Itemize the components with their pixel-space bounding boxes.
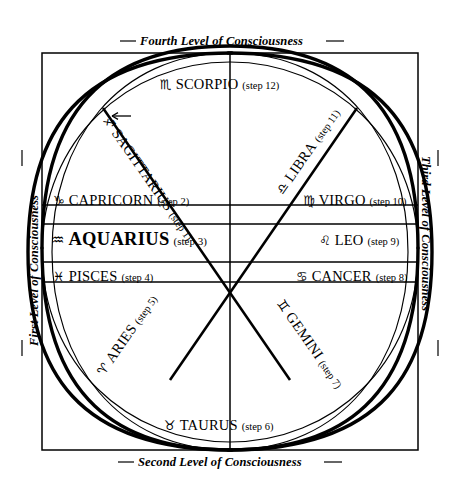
cancer-glyph-icon: ♋ bbox=[296, 269, 308, 284]
sign-label-cancer: ♋ CANCER (step 8) bbox=[296, 268, 407, 284]
pisces-name: PISCES bbox=[69, 268, 118, 284]
sign-label-virgo: ♍ VIRGO (step 10) bbox=[303, 192, 407, 208]
virgo-step: (step 10) bbox=[370, 196, 407, 207]
level-label-fourth: Fourth Level of Consciousness bbox=[140, 34, 303, 49]
zodiac-consciousness-diagram: Fourth Level of Consciousness Second Lev… bbox=[0, 0, 457, 495]
capricorn-glyph-icon: ♑ bbox=[53, 193, 65, 208]
scorpio-glyph-icon: ♏ bbox=[160, 77, 172, 92]
capricorn-name: CAPRICORN bbox=[69, 192, 154, 208]
pisces-glyph-icon: ♓ bbox=[53, 269, 65, 284]
sign-label-taurus: ♉ TAURUS (step 6) bbox=[164, 417, 274, 433]
sign-label-scorpio: ♏ SCORPIO (step 12) bbox=[160, 76, 279, 92]
sign-label-leo: ♌ LEO (step 9) bbox=[319, 232, 399, 248]
level-label-third: Third Level of Consciousness bbox=[418, 156, 433, 311]
taurus-name: TAURUS bbox=[180, 417, 238, 433]
scorpio-name: SCORPIO bbox=[176, 76, 239, 92]
aquarius-name: AQUARIUS bbox=[68, 229, 169, 249]
pisces-step: (step 4) bbox=[121, 272, 153, 283]
virgo-name: VIRGO bbox=[319, 192, 366, 208]
sign-label-pisces: ♓ PISCES (step 4) bbox=[53, 268, 153, 284]
taurus-step: (step 6) bbox=[242, 421, 274, 432]
aquarius-glyph-icon: ♒ bbox=[51, 231, 64, 249]
leo-name: LEO bbox=[335, 232, 364, 248]
level-label-first: First Level of Consciousness bbox=[27, 195, 42, 346]
cancer-step: (step 8) bbox=[376, 272, 408, 283]
taurus-glyph-icon: ♉ bbox=[164, 418, 176, 433]
level-label-second: Second Level of Consciousness bbox=[138, 455, 302, 470]
leo-step: (step 9) bbox=[367, 236, 399, 247]
cancer-name: CANCER bbox=[312, 268, 372, 284]
virgo-glyph-icon: ♍ bbox=[303, 193, 315, 208]
scorpio-step: (step 12) bbox=[242, 80, 279, 91]
leo-glyph-icon: ♌ bbox=[319, 233, 331, 248]
